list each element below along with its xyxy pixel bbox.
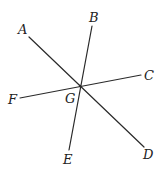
label-b: B <box>88 10 99 25</box>
label-d: D <box>142 147 154 162</box>
label-e: E <box>62 152 73 167</box>
intersection-point-g <box>79 85 81 87</box>
label-g: G <box>65 91 75 106</box>
label-a: A <box>17 22 27 37</box>
intersecting-lines-diagram: A B C D E F G <box>0 0 162 172</box>
label-f: F <box>7 92 18 107</box>
label-c: C <box>144 68 154 83</box>
